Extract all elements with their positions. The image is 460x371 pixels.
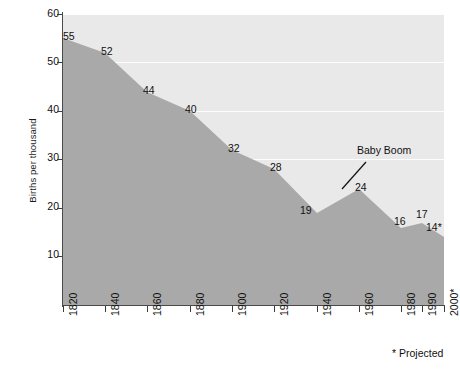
x-tick-mark-1920	[274, 306, 275, 312]
x-tick-label-1990: 1990	[427, 293, 438, 316]
x-tick-label-1920: 1920	[279, 293, 290, 316]
x-tick-mark-1840	[105, 306, 106, 312]
x-tick-label-2000: 2000*	[449, 289, 460, 316]
data-label-1940: 19	[300, 205, 312, 216]
cropped-caption-text: · · · · · · · · · ·	[55, 366, 460, 370]
data-label-1820: 55	[63, 31, 75, 42]
x-tick-mark-1880	[190, 306, 191, 312]
births-per-thousand-area-chart: Births per thousand 60 50 40 30 20 10 55…	[0, 0, 460, 371]
plot-area	[63, 14, 444, 305]
x-tick-mark-1860	[147, 306, 148, 312]
x-tick-label-1840: 1840	[110, 293, 121, 316]
y-axis-line	[62, 12, 63, 307]
data-label-1900: 32	[228, 143, 240, 154]
data-label-1880: 40	[185, 104, 197, 115]
data-label-1840: 52	[101, 46, 113, 57]
cropped-caption-sliver: · · · · · · · · · ·	[0, 366, 460, 371]
x-tick-mark-1960	[359, 306, 360, 312]
annotation-leader-line	[336, 155, 372, 191]
x-tick-mark-1820	[63, 306, 64, 312]
x-tick-label-1900: 1900	[237, 293, 248, 316]
y-tick-label-50: 50	[33, 56, 59, 67]
x-tick-label-1880: 1880	[195, 293, 206, 316]
x-tick-mark-1980	[401, 306, 402, 312]
area-series-births	[63, 14, 444, 305]
data-label-1920: 28	[270, 162, 282, 173]
y-tick-label-30: 30	[33, 152, 59, 163]
x-tick-label-1980: 1980	[406, 293, 417, 316]
y-tick-label-20: 20	[33, 201, 59, 212]
data-label-1990: 17	[416, 209, 428, 220]
x-tick-mark-1900	[232, 306, 233, 312]
data-label-1860: 44	[143, 85, 155, 96]
x-tick-label-1940: 1940	[322, 293, 333, 316]
y-tick-label-60: 60	[33, 8, 59, 19]
x-tick-mark-1990	[422, 306, 423, 312]
y-tick-label-40: 40	[33, 104, 59, 115]
data-label-1980: 16	[394, 216, 406, 227]
x-tick-label-1860: 1860	[152, 293, 163, 316]
x-tick-label-1960: 1960	[364, 293, 375, 316]
y-tick-label-10: 10	[33, 249, 59, 260]
x-tick-mark-1940	[317, 306, 318, 312]
x-tick-label-1820: 1820	[68, 293, 79, 316]
footnote-projected: * Projected	[392, 347, 443, 359]
x-tick-mark-2000	[444, 306, 445, 312]
data-label-2000: 14*	[426, 222, 442, 233]
